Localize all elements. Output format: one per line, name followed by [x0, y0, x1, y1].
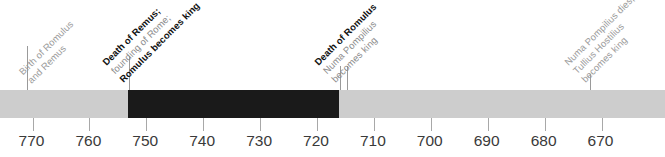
axis-tick — [317, 118, 318, 131]
timeline-segment — [339, 90, 635, 118]
axis-tick — [374, 118, 375, 131]
axis-tick — [260, 118, 261, 131]
event-label-death-of-remus-founding-of-rome: Death of Remus;founding of Rome;Romulus … — [100, 0, 203, 86]
axis-tick-label: 720 — [303, 132, 329, 150]
axis-tick-label: 700 — [417, 132, 443, 150]
axis-tick — [488, 118, 489, 131]
axis-tick-label: 690 — [474, 132, 500, 150]
axis-tick — [33, 118, 34, 131]
axis-tick-label: 740 — [189, 132, 215, 150]
event-label-numa-pompilius-dies: Numa Pompilius dies;Tullius Hostiliusbec… — [562, 0, 654, 86]
axis-tick-label: 750 — [132, 132, 158, 150]
axis-tick — [431, 118, 432, 131]
axis-tick-label: 760 — [75, 132, 101, 150]
timeline-chart: Birth of Romulusand RemusDeath of Remus;… — [0, 0, 665, 157]
axis-tick-label: 770 — [19, 132, 45, 150]
event-label-death-of-romulus: Death of RomulusNuma Pompiliusbecomes ki… — [312, 1, 396, 85]
axis-tick-label: 730 — [246, 132, 272, 150]
axis-tick — [203, 118, 204, 131]
timeline-segment — [128, 90, 339, 118]
axis-tick — [146, 118, 147, 131]
axis-tick — [545, 118, 546, 131]
axis-tick-label: 670 — [588, 132, 614, 150]
axis-tick — [602, 118, 603, 131]
axis-tick-label: 710 — [360, 132, 386, 150]
axis-tick — [89, 118, 90, 131]
axis-tick-label: 680 — [531, 132, 557, 150]
timeline-segment — [0, 90, 128, 118]
